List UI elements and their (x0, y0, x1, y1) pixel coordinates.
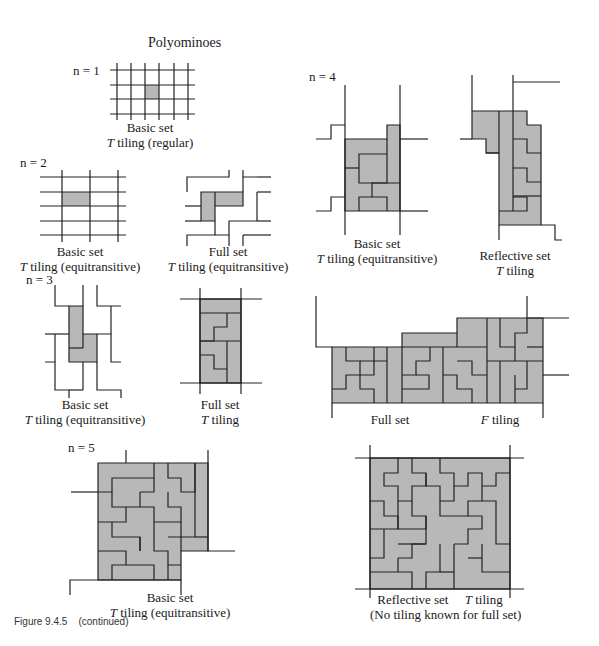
n4-basic-label: Basic set T tiling (equitransitive) (297, 236, 457, 266)
n3-label: n = 3 (26, 272, 53, 288)
n1-basic-label: Basic set T tiling (regular) (100, 120, 200, 150)
figure-caption: Figure 9.4.5 (continued) (14, 616, 129, 627)
n5-label: n = 5 (68, 440, 95, 456)
n2-basic-label: Basic set T tiling (equitransitive) (0, 244, 160, 274)
n5-reflective-tiling (355, 445, 524, 598)
n2-label: n = 2 (20, 155, 47, 171)
n1-grid (110, 63, 195, 120)
polyomino-tilings-figure (0, 0, 599, 646)
n3-full-label: Full set T tiling (180, 397, 260, 427)
n2-basic-grid (40, 170, 126, 242)
n4-f-tiling-label: F tiling (470, 412, 530, 427)
n4-full-label: Full set (360, 412, 420, 427)
n2-full-label: Full set T tiling (equitransitive) (148, 244, 308, 274)
n2-full-tiling (185, 170, 271, 246)
n4-basic-tiling (316, 85, 428, 235)
n4-reflective-label: Reflective set T tiling (465, 248, 565, 278)
n4-full-tiling (316, 296, 569, 418)
n1-label: n = 1 (73, 63, 100, 79)
n4-reflective-tiling (460, 75, 562, 240)
n3-basic-label: Basic set T tiling (equitransitive) (5, 397, 165, 427)
n3-basic-tiling (45, 285, 121, 398)
n3-full-tiling (180, 288, 262, 394)
n4-label: n = 4 (309, 69, 336, 85)
n5-basic-tiling (70, 450, 235, 595)
n5-reflective-label: Reflective set T tiling (No tiling known… (370, 592, 510, 622)
